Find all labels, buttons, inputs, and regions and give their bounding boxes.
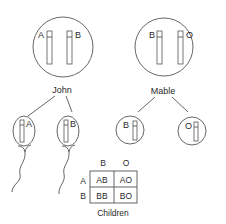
punnett-caption: Children [97, 208, 129, 218]
egg-b: B [116, 116, 144, 144]
punnett-square: B O A B AB AO BB BO Children [80, 158, 137, 218]
sperm-b-allele-label: B [70, 119, 76, 129]
sperm-b: B [57, 116, 79, 194]
mother-cell-outline [135, 18, 193, 76]
mother-to-egg-o-line [172, 97, 188, 112]
father-to-sperm-b-line [66, 96, 72, 112]
punnett-row-header-1: A [80, 176, 86, 186]
mother-name-label: Mable [151, 86, 176, 96]
father-chromosome-1 [47, 31, 52, 64]
mother-allele-2-label: O [186, 30, 193, 40]
sperm-a-allele-label: A [26, 119, 32, 129]
father-cell-outline [33, 17, 93, 77]
punnett-cell: AO [120, 175, 133, 185]
punnett-col-header-1: B [100, 158, 106, 168]
punnett-cell: AB [96, 175, 108, 185]
mother-chromosome-2 [178, 31, 183, 64]
father-chromosome-2 [67, 31, 72, 64]
father-allele-2-label: B [75, 30, 81, 40]
punnett-col-header-2: O [123, 158, 130, 168]
sperm-a: A [12, 116, 35, 192]
mother-to-egg-b-line [138, 97, 155, 112]
blood-type-inheritance-diagram: A B John B O Mable A [0, 0, 226, 224]
mother-cell: B O [135, 18, 193, 76]
egg-o-allele-label: O [185, 121, 192, 131]
father-allele-1-label: A [38, 30, 44, 40]
father-cell: A B [33, 17, 93, 77]
egg-o: O [178, 117, 206, 145]
punnett-cell: BO [120, 191, 133, 201]
mother-chromosome-1 [157, 31, 162, 64]
punnett-row-header-2: B [80, 191, 86, 201]
father-to-sperm-a-line [28, 96, 55, 116]
mother-allele-1-label: B [149, 30, 155, 40]
egg-b-allele-label: B [123, 120, 129, 130]
punnett-cell: BB [96, 191, 108, 201]
father-name-label: John [52, 85, 72, 95]
